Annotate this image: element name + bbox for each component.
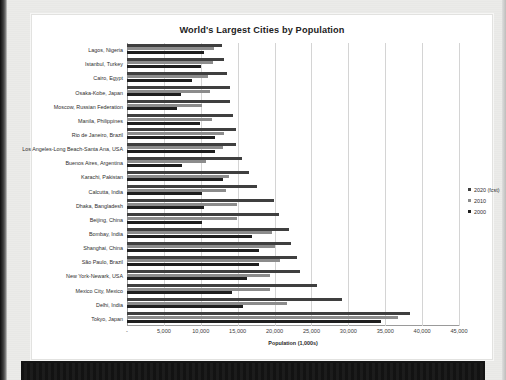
- bar-2020-fcst-[interactable]: [127, 128, 236, 131]
- bar-2000[interactable]: [127, 150, 215, 153]
- bar-2000[interactable]: [127, 192, 202, 195]
- bar-2010[interactable]: [127, 47, 214, 50]
- bar-2020-fcst-[interactable]: [127, 270, 300, 273]
- bar-2010[interactable]: [127, 61, 213, 64]
- bar-2000[interactable]: [127, 277, 247, 280]
- bar-group[interactable]: New York-Newark, USA: [127, 269, 459, 283]
- bar-2020-fcst-[interactable]: [127, 114, 233, 117]
- bar-group[interactable]: Los Angeles-Long Beach-Santa Ana, USA: [127, 142, 459, 156]
- x-tick-label: 45,000: [450, 328, 467, 334]
- bar-group[interactable]: Cairo, Egypt: [127, 71, 459, 85]
- bar-2020-fcst-[interactable]: [127, 143, 236, 146]
- legend-label: 2000: [474, 209, 486, 215]
- bar-2020-fcst-[interactable]: [127, 171, 249, 174]
- bar-2020-fcst-[interactable]: [127, 185, 257, 188]
- bar-group[interactable]: Osaka-Kobe, Japan: [127, 85, 459, 99]
- bar-group[interactable]: Manila, Philippines: [127, 114, 459, 128]
- bar-2010[interactable]: [127, 231, 272, 234]
- bar-2000[interactable]: [127, 249, 259, 252]
- category-label: Istanbul, Turkey: [85, 61, 123, 67]
- bar-group[interactable]: Calcutta, India: [127, 185, 459, 199]
- bar-2010[interactable]: [127, 104, 202, 107]
- chart-canvas[interactable]: World's Largest Cities by Population -5,…: [31, 14, 493, 360]
- bar-2000[interactable]: [127, 263, 259, 266]
- bar-2020-fcst-[interactable]: [127, 242, 291, 245]
- bar-group[interactable]: Dhaka, Bangladesh: [127, 199, 459, 213]
- slide-background: World's Largest Cities by Population -5,…: [7, 0, 502, 380]
- bar-2010[interactable]: [127, 118, 212, 121]
- bar-2000[interactable]: [127, 235, 252, 238]
- bar-2010[interactable]: [127, 160, 206, 163]
- bar-group[interactable]: Karachi, Pakistan: [127, 170, 459, 184]
- bar-group[interactable]: Shanghai, China: [127, 241, 459, 255]
- bar-2000[interactable]: [127, 178, 223, 181]
- bar-2000[interactable]: [127, 305, 243, 308]
- bar-2010[interactable]: [127, 75, 208, 78]
- x-tick-label: 5,000: [157, 328, 171, 334]
- bar-group[interactable]: São Paulo, Brazil: [127, 255, 459, 269]
- bar-group[interactable]: Istanbul, Turkey: [127, 57, 459, 71]
- bar-2020-fcst-[interactable]: [127, 228, 289, 231]
- bar-group[interactable]: Rio de Janeiro, Brazil: [127, 128, 459, 142]
- bar-2000[interactable]: [127, 122, 200, 125]
- bar-2020-fcst-[interactable]: [127, 284, 317, 287]
- bar-2010[interactable]: [127, 288, 270, 291]
- bar-2010[interactable]: [127, 146, 223, 149]
- bar-2000[interactable]: [127, 136, 215, 139]
- bar-2000[interactable]: [127, 65, 201, 68]
- legend-item[interactable]: 2000: [468, 207, 506, 216]
- category-label: Beijing, China: [90, 217, 123, 223]
- bar-2010[interactable]: [127, 217, 237, 220]
- bar-2010[interactable]: [127, 245, 275, 248]
- bar-2010[interactable]: [127, 90, 210, 93]
- window-right-edge: [502, 0, 506, 380]
- chart-legend[interactable]: 2020 (fcst)20102000: [468, 185, 506, 218]
- legend-swatch-icon: [468, 188, 471, 191]
- bar-2020-fcst-[interactable]: [127, 44, 222, 47]
- bar-2000[interactable]: [127, 206, 204, 209]
- category-label: Bombay, India: [89, 231, 123, 237]
- bar-2000[interactable]: [127, 107, 177, 110]
- bar-2020-fcst-[interactable]: [127, 312, 410, 315]
- bar-2010[interactable]: [127, 259, 280, 262]
- legend-item[interactable]: 2010: [468, 196, 506, 205]
- bar-2000[interactable]: [127, 291, 232, 294]
- bar-2010[interactable]: [127, 302, 287, 305]
- bar-group[interactable]: Bombay, India: [127, 227, 459, 241]
- bar-2010[interactable]: [127, 274, 270, 277]
- bar-2020-fcst-[interactable]: [127, 298, 342, 301]
- bar-group[interactable]: Lagos, Nigeria: [127, 43, 459, 57]
- x-tick-label: 10,000: [192, 328, 209, 334]
- bar-2010[interactable]: [127, 175, 229, 178]
- category-label: Calcutta, India: [89, 189, 123, 195]
- bar-2010[interactable]: [127, 316, 398, 319]
- x-tick-label: 25,000: [303, 328, 320, 334]
- bar-2010[interactable]: [127, 132, 224, 135]
- bar-2020-fcst-[interactable]: [127, 58, 224, 61]
- bar-2020-fcst-[interactable]: [127, 256, 297, 259]
- bar-2010[interactable]: [127, 189, 226, 192]
- screenshot-root: World's Largest Cities by Population -5,…: [0, 0, 506, 380]
- bar-2000[interactable]: [127, 221, 202, 224]
- bar-2020-fcst-[interactable]: [127, 72, 227, 75]
- legend-item[interactable]: 2020 (fcst): [468, 185, 506, 194]
- bar-2000[interactable]: [127, 164, 182, 167]
- bar-2020-fcst-[interactable]: [127, 213, 279, 216]
- bar-2020-fcst-[interactable]: [127, 199, 274, 202]
- x-tick-label: -: [126, 328, 128, 334]
- bar-2000[interactable]: [127, 320, 381, 323]
- bar-group[interactable]: Moscow, Russian Federation: [127, 100, 459, 114]
- bar-2020-fcst-[interactable]: [127, 157, 242, 160]
- bar-2020-fcst-[interactable]: [127, 86, 230, 89]
- bar-group[interactable]: Mexico City, Mexico: [127, 284, 459, 298]
- bar-2010[interactable]: [127, 203, 237, 206]
- bar-group[interactable]: Beijing, China: [127, 213, 459, 227]
- bar-2020-fcst-[interactable]: [127, 100, 230, 103]
- bar-group[interactable]: Tokyo, Japan: [127, 312, 459, 326]
- bar-2000[interactable]: [127, 79, 192, 82]
- bar-group[interactable]: Buenos Aires, Argentina: [127, 156, 459, 170]
- bar-2000[interactable]: [127, 51, 204, 54]
- bar-2000[interactable]: [127, 93, 181, 96]
- bar-group[interactable]: Delhi, India: [127, 298, 459, 312]
- legend-swatch-icon: [468, 199, 471, 202]
